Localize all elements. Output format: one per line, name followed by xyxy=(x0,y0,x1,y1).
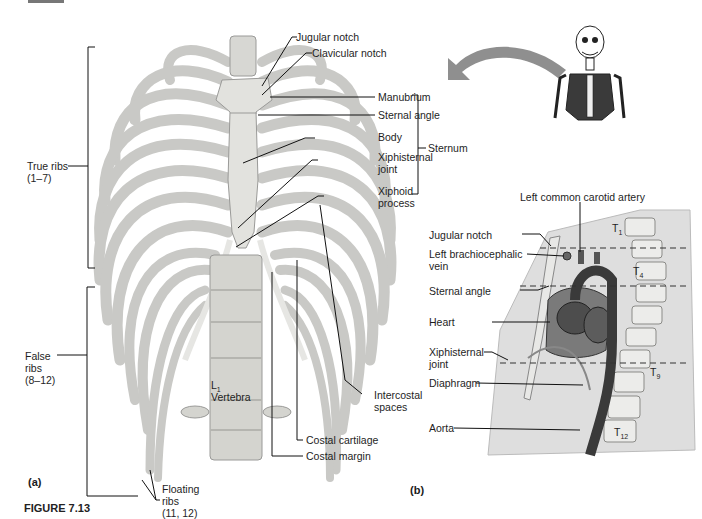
label-diaphragm: Diaphragm xyxy=(429,377,480,389)
label-costal-cartilage: Costal cartilage xyxy=(306,434,378,446)
label-false-ribs: False ribs (8–12) xyxy=(25,350,55,386)
panel-label-b: (b) xyxy=(410,484,424,496)
label-jugular-notch-a: Jugular notch xyxy=(296,31,359,43)
label-true-ribs: True ribs (1–7) xyxy=(27,160,68,184)
label-t1: T1 xyxy=(612,222,622,239)
label-manubrium: Manubrium xyxy=(378,91,431,103)
label-t12: T12 xyxy=(614,426,628,443)
label-jugular-notch-b: Jugular notch xyxy=(429,229,492,241)
label-intercostal-spaces: Intercostal spaces xyxy=(374,389,422,413)
label-vertebra: Vertebra xyxy=(211,391,251,403)
panel-label-a: (a) xyxy=(28,476,41,488)
label-t9: T9 xyxy=(650,366,660,383)
label-sternal-angle-b: Sternal angle xyxy=(429,285,491,297)
label-xiphoid-process: Xiphoid process xyxy=(378,185,415,209)
curved-arrow-icon xyxy=(448,47,566,80)
label-clavicular-notch: Clavicular notch xyxy=(312,47,387,59)
figure-caption: FIGURE 7.13 xyxy=(24,502,90,514)
sagittal-section-illustration xyxy=(488,210,695,455)
label-aorta: Aorta xyxy=(429,422,454,434)
label-sternum: Sternum xyxy=(428,142,468,154)
label-floating-ribs: Floating ribs (11, 12) xyxy=(162,483,199,519)
rib-cage-illustration xyxy=(99,36,391,478)
label-left-common-carotid-artery: Left common carotid artery xyxy=(520,191,645,203)
label-heart: Heart xyxy=(429,316,455,328)
label-xiphisternal-joint-b: Xiphisternal joint xyxy=(429,346,484,370)
label-left-brachiocephalic-vein: Left brachiocephalic vein xyxy=(429,248,522,272)
label-costal-margin: Costal margin xyxy=(306,450,371,462)
skeleton-inset xyxy=(448,26,624,120)
label-xiphisternal-joint-a: Xiphisternal joint xyxy=(378,151,433,175)
label-t4: T4 xyxy=(633,265,643,282)
page-tab xyxy=(28,0,64,3)
label-sternal-angle-a: Sternal angle xyxy=(378,109,440,121)
label-body: Body xyxy=(378,131,402,143)
